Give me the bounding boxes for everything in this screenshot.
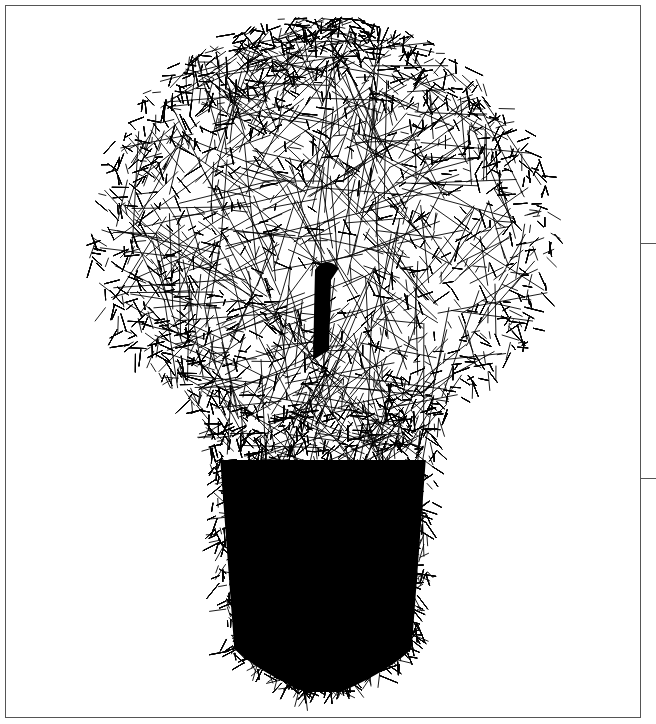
light-bulb-line-art	[6, 6, 640, 717]
artwork-canvas[interactable]	[6, 6, 640, 717]
side-panel	[641, 5, 656, 718]
side-panel-divider-2	[641, 478, 656, 479]
side-panel-divider-1	[641, 243, 656, 244]
